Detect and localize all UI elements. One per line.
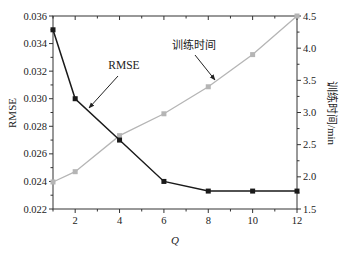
y-tick-label-right: 1.5: [303, 204, 316, 215]
y-tick-label-right: 4.0: [303, 43, 316, 54]
y-tick-label-left: 0.026: [23, 148, 47, 159]
y-tick-label-right: 2.5: [303, 139, 316, 150]
y-tick-label-right: 2.0: [303, 171, 316, 182]
training-time-arrow-icon: [195, 55, 215, 80]
rmse-marker: [73, 96, 78, 101]
x-tick-label: 4: [117, 215, 123, 226]
y-axis-title-right: 训练时间/min: [326, 81, 339, 146]
y-axis-title-left: RMSE: [6, 98, 18, 128]
training-time-marker: [295, 14, 300, 19]
rmse-marker: [295, 189, 300, 194]
y-tick-label-right: 4.5: [303, 11, 316, 22]
annotations: RMSE训练时间: [89, 38, 216, 108]
chart-canvas: 246810120.0220.0240.0260.0280.0300.0320.…: [0, 0, 339, 255]
rmse-marker: [250, 189, 255, 194]
dual-axis-line-chart: 246810120.0220.0240.0260.0280.0300.0320.…: [0, 0, 339, 255]
rmse-line: [53, 30, 297, 191]
training-time-marker: [117, 133, 122, 138]
training-time-marker: [51, 179, 56, 184]
y-tick-label-left: 0.022: [23, 204, 47, 215]
y-tick-label-left: 0.028: [23, 121, 47, 132]
training-time-marker: [206, 84, 211, 89]
rmse-marker: [51, 27, 56, 32]
x-tick-label: 12: [292, 215, 303, 226]
y-tick-label-left: 0.036: [23, 11, 47, 22]
training-time-marker: [161, 111, 166, 116]
rmse-marker: [117, 138, 122, 143]
axis-ticks: 246810120.0220.0240.0260.0280.0300.0320.…: [23, 11, 316, 227]
y-tick-label-right: 3.0: [303, 107, 316, 118]
rmse-arrow-icon: [89, 76, 118, 108]
x-tick-label: 10: [247, 215, 258, 226]
y-tick-label-left: 0.034: [23, 38, 47, 49]
y-tick-label-left: 0.024: [23, 176, 47, 187]
rmse-marker: [161, 179, 166, 184]
training-time-marker: [73, 169, 78, 174]
x-tick-label: 2: [73, 215, 78, 226]
x-tick-label: 6: [161, 215, 166, 226]
y-tick-label-left: 0.032: [23, 66, 47, 77]
training-time-annotation-label: 训练时间: [172, 38, 216, 52]
training-time-marker: [250, 52, 255, 57]
x-axis-title: Q: [171, 234, 179, 246]
y-tick-label-right: 3.5: [303, 75, 316, 86]
y-tick-label-left: 0.030: [23, 93, 47, 104]
rmse-marker: [206, 189, 211, 194]
rmse-annotation-label: RMSE: [108, 59, 139, 71]
x-tick-label: 8: [206, 215, 211, 226]
